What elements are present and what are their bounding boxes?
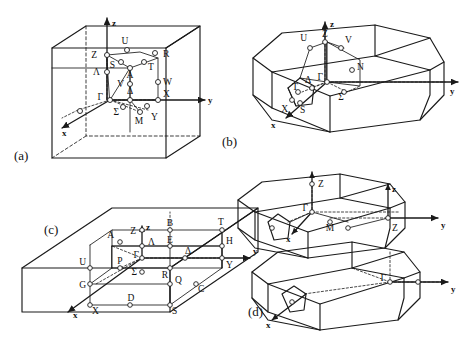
point-label-b-V: V (345, 35, 352, 45)
point-label-b-N: N (357, 62, 364, 72)
axis-label-c-y: y (253, 246, 258, 256)
point-label-a-A: A (127, 70, 134, 80)
point-label-a-S: S (110, 60, 115, 70)
point-label-a-W: W (163, 77, 172, 87)
axis-label-d-x2: x (286, 234, 291, 244)
point-label-c-Gamma: Γ (134, 250, 140, 260)
point-label-a-V: V (117, 79, 124, 89)
point-label-c-G: G (79, 280, 86, 290)
panel-d-geometry (238, 172, 448, 330)
axis-label-d-y2: y (441, 220, 446, 230)
point-label-d-M: M (326, 223, 335, 233)
panel-label-d: (d) (248, 304, 263, 320)
point-label-a-R: R (163, 49, 170, 59)
axis-label-c-z: z (146, 222, 150, 232)
point-label-d-Z2: Z (392, 223, 398, 233)
point-label-a-Y: Y (151, 112, 158, 122)
point-label-c-Delta: Δ (185, 246, 191, 256)
point-label-c-S: S (172, 306, 177, 316)
axis-label-a-x: x (62, 128, 67, 138)
point-label-b-Sigma: Σ (338, 92, 344, 102)
point-label-b-Gamma: Γ (318, 72, 324, 82)
point-label-a-Lambda: Λ (93, 67, 100, 77)
point-label-a-Z: Z (91, 50, 97, 60)
panel-b-geometry (253, 22, 458, 132)
point-label-b-U: U (300, 33, 307, 43)
point-label-c-Z: Z (130, 226, 136, 236)
point-label-c-E: E (167, 235, 173, 245)
point-label-a-Gamma: Γ (98, 92, 104, 102)
point-label-c-C: C (198, 284, 204, 294)
point-label-b-T: T (292, 82, 298, 92)
axis-label-d-z2: z (392, 184, 396, 194)
point-label-a-X: X (163, 89, 170, 99)
axis-label-c-x: x (73, 310, 78, 320)
point-label-d-Gamma1: Γ (303, 203, 309, 213)
point-label-a-T: T (148, 62, 154, 72)
point-label-c-T: T (218, 217, 224, 227)
point-label-c-Q: Q (175, 275, 182, 285)
point-label-c-X: X (92, 306, 99, 316)
point-label-c-Sigma: Σ (131, 267, 137, 277)
point-label-a-U: U (122, 36, 129, 46)
axis-label-d-x1: x (266, 320, 271, 330)
axis-label-a-z: z (112, 18, 116, 28)
axis-label-b-z: z (330, 19, 334, 29)
point-label-d-Z1: Z (318, 179, 324, 189)
axis-label-d-y1: y (451, 284, 456, 294)
point-label-c-A: A (107, 230, 114, 240)
point-label-a-M: M (135, 116, 144, 126)
point-label-c-Y: Y (226, 260, 233, 270)
point-label-b-S: S (300, 105, 305, 115)
panel-label-b: (b) (222, 134, 237, 150)
point-label-c-P: P (117, 256, 122, 266)
point-label-b-Z: Z (322, 29, 328, 39)
point-label-a-Delta: Δ (127, 86, 133, 96)
panel-label-c: (c) (44, 222, 58, 238)
point-label-d-Gamma2: Γ (381, 273, 387, 283)
axis-label-a-y: y (208, 95, 213, 105)
point-label-c-D: D (128, 293, 135, 303)
point-label-c-Lambda: Λ (148, 237, 155, 247)
point-label-c-R: R (162, 270, 169, 280)
point-label-c-H: H (226, 236, 233, 246)
axis-label-b-y: y (450, 86, 455, 96)
brillouin-zone-figure: Z U R S A T Λ V W Γ Δ X Σ M Y z y x U Z … (0, 0, 463, 347)
point-label-c-B: B (167, 218, 173, 228)
point-label-a-Sigma: Σ (113, 107, 119, 117)
panel-label-a: (a) (14, 148, 28, 164)
axis-label-b-x: x (271, 120, 276, 130)
point-label-c-U: U (79, 257, 86, 267)
point-label-b-X: X (281, 104, 288, 114)
point-label-b-Delta: Δ (305, 75, 311, 85)
figure-canvas: Z U R S A T Λ V W Γ Δ X Σ M Y z y x U Z … (0, 0, 463, 347)
